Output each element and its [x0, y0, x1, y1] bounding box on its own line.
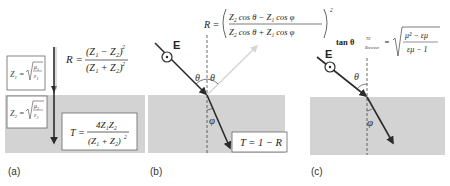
panel-c: E θ φ tan θ TE Brewster = μ² − εμ εμ − 1…: [310, 27, 445, 177]
panel-b: E θ θ φ R = Z₂ cos θ − Z₁ cos φ Z₂ cos θ…: [148, 7, 333, 177]
phi-b: φ: [209, 114, 215, 126]
svg-text:4Z₁Z₂: 4Z₁Z₂: [96, 120, 117, 130]
reflectance-formula-b: R = Z₂ cos θ − Z₁ cos φ Z₂ cos θ + Z₁ co…: [203, 7, 333, 38]
svg-text:Z1 =: Z1 =: [10, 70, 24, 80]
theta-incident-b: θ: [195, 72, 200, 83]
transmittance-box-a: T = 4Z₁Z₂ (Z₁ + Z₂) 2: [62, 113, 137, 150]
svg-text:2: 2: [330, 7, 333, 13]
theta-c: θ: [354, 71, 359, 82]
panel-label-a: (a): [8, 166, 20, 177]
reflectance-formula-a: R = (Z₁ − Z₂) 2 (Z₁ + Z₂) 2: [65, 44, 128, 74]
panel-label-c: (c): [311, 166, 323, 177]
svg-text:(Z₁ + Z₂): (Z₁ + Z₂): [86, 62, 123, 74]
svg-text:2: 2: [122, 61, 125, 67]
svg-text:R =: R =: [203, 19, 219, 30]
e-field-out-of-page-icon: [325, 62, 335, 72]
svg-text:T = 1 − R: T = 1 − R: [240, 137, 283, 148]
angle-arc-c: [357, 84, 367, 89]
panel-a: Z1 = μ1 ε1 Z2 = μ2 ε2 R = (Z₁ − Z₂) 2 (Z…: [5, 44, 145, 177]
medium-region-c: [310, 97, 445, 155]
theta-reflected-b: θ: [210, 72, 215, 83]
z2-definition-box: Z2 = μ2 ε2: [7, 96, 47, 128]
z1-definition-box: Z1 = μ1 ε1: [7, 56, 45, 90]
svg-text:(Z₁ + Z₂): (Z₁ + Z₂): [88, 136, 121, 146]
svg-text:Brewster: Brewster: [365, 45, 380, 50]
phi-c: φ: [367, 116, 373, 128]
panel-label-b: (b): [150, 166, 162, 177]
svg-text:T =: T =: [70, 127, 85, 138]
reflected-ray: [207, 46, 257, 95]
svg-text:2: 2: [124, 134, 127, 140]
svg-text:Z₂ cos θ − Z₁ cos φ: Z₂ cos θ − Z₁ cos φ: [229, 12, 295, 22]
brewster-formula: tan θ TE Brewster = μ² − εμ εμ − 1: [336, 27, 440, 56]
svg-text:(Z₁ − Z₂): (Z₁ − Z₂): [86, 46, 123, 58]
svg-text:Z₂ cos θ + Z₁ cos φ: Z₂ cos θ + Z₁ cos φ: [229, 27, 295, 37]
svg-text:μ² − εμ: μ² − εμ: [404, 31, 428, 40]
transmittance-box-b: T = 1 − R: [232, 132, 287, 152]
svg-text:tan θ: tan θ: [336, 37, 355, 47]
incident-ray-b: [155, 43, 206, 94]
svg-text:=: =: [384, 37, 390, 47]
svg-text:2: 2: [122, 44, 125, 50]
svg-text:R =: R =: [65, 53, 83, 65]
e-field-label-b: E: [173, 39, 180, 51]
svg-text:Z2 =: Z2 =: [10, 109, 24, 119]
svg-text:εμ − 1: εμ − 1: [407, 45, 428, 54]
e-field-out-of-page-icon: [162, 52, 172, 62]
svg-text:TE: TE: [366, 36, 371, 41]
e-field-label-c: E: [325, 48, 332, 60]
